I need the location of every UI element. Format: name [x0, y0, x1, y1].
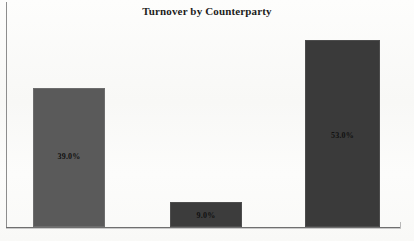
bar-value-label: 39.0%: [34, 152, 104, 161]
bar-9: 9.0%: [170, 202, 242, 227]
bar-value-label: 53.0%: [306, 131, 379, 140]
bar-39: 39.0%: [33, 88, 105, 227]
bar-53: 53.0%: [305, 40, 380, 227]
bar-value-label: 9.0%: [171, 211, 241, 220]
bar-chart-figure: Turnover by Counterparty 39.0%9.0%53.0%: [0, 0, 414, 241]
chart-title: Turnover by Counterparty: [0, 5, 414, 17]
axis-left-line: [6, 2, 7, 228]
axis-right-stub: [400, 222, 401, 228]
axis-bottom-shadow-line: [6, 228, 401, 229]
